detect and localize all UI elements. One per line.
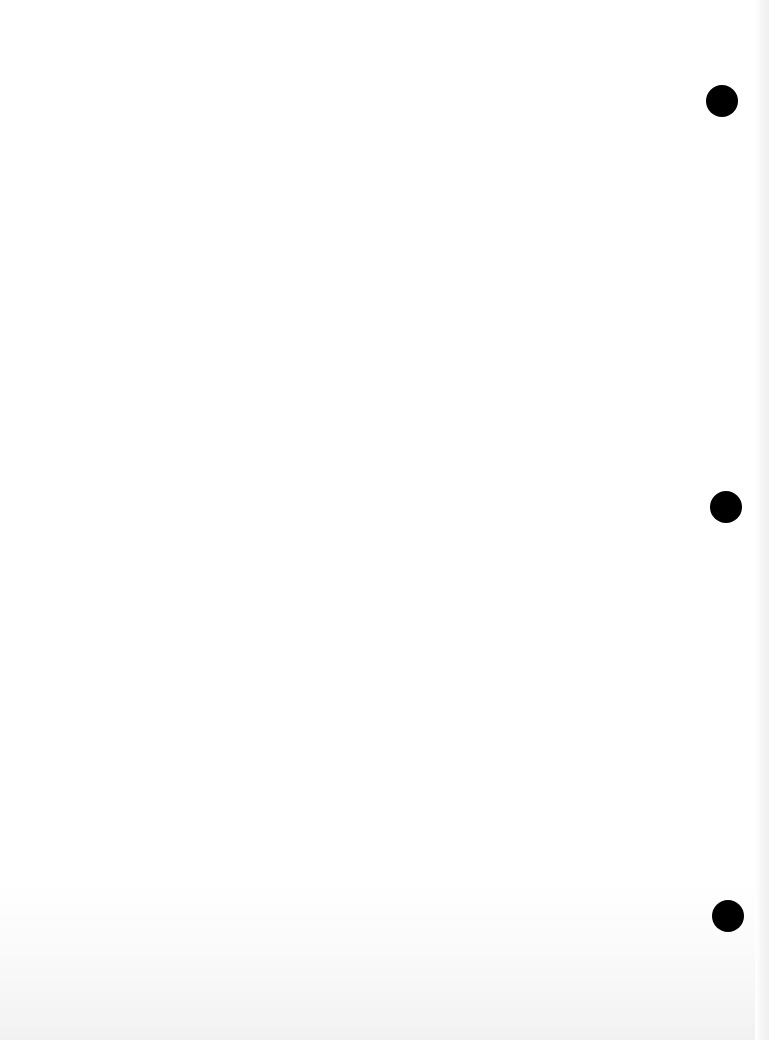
punch-hole-top [706,85,738,117]
punch-hole-middle [710,491,742,523]
page-right-edge-shadow [755,0,769,1040]
blank-document-page [0,0,769,1040]
punch-hole-bottom [712,900,744,932]
